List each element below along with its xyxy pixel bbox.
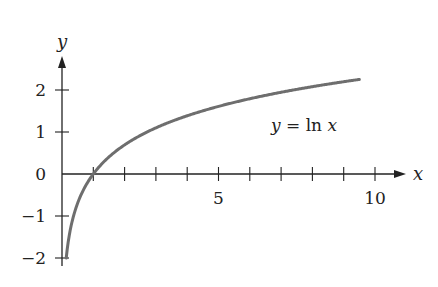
annotation-part: ln [300, 115, 322, 135]
x-tick-label: 10 [364, 188, 386, 208]
annotation-part: y [270, 115, 281, 135]
labels: 510210−1−2xyy = ln x [21, 31, 423, 268]
annotation-part: = [281, 115, 301, 135]
y-axis-arrow-icon [58, 56, 66, 68]
x-axis-label: x [413, 163, 423, 184]
x-axis-arrow-icon [394, 170, 406, 178]
ln-curve [66, 79, 359, 258]
y-tick-label: −2 [21, 248, 46, 268]
y-tick-label: 1 [35, 122, 46, 142]
y-tick-label: 2 [35, 80, 46, 100]
x-tick-label: 5 [213, 188, 224, 208]
y-axis-label: y [56, 31, 68, 52]
curve-layer [66, 79, 359, 258]
ln-chart: 510210−1−2xyy = ln x [0, 0, 438, 287]
curve-annotation: y = ln x [270, 115, 337, 135]
annotation-part: x [322, 115, 337, 135]
axes [58, 56, 406, 266]
y-tick-label: −1 [21, 206, 46, 226]
y-tick-label: 0 [35, 164, 46, 184]
